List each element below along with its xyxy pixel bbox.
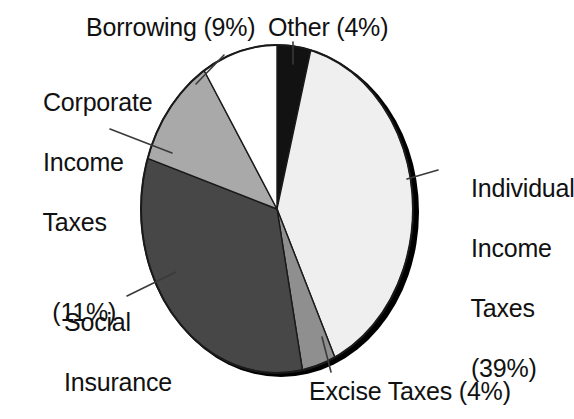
slice-label-individual-income-taxes: Individual Income Taxes (39%): [444, 143, 574, 413]
pie-slices: [141, 45, 413, 373]
pie-chart: Borrowing (9%) Other (4%) Corporate Inco…: [0, 0, 574, 419]
slice-label-individual-line-2: Income: [471, 234, 552, 262]
slice-label-corporate-line-1: Corporate: [43, 88, 152, 116]
slice-label-social-line-1: Social: [64, 308, 131, 336]
slice-label-individual-line-1: Individual: [471, 174, 574, 202]
slice-label-excise-taxes: Excise Taxes (4%): [309, 376, 511, 406]
slice-label-individual-line-3: Taxes: [471, 294, 535, 322]
slice-label-borrowing: Borrowing (9%): [86, 12, 255, 42]
slice-label-corporate-line-2: Income: [43, 148, 124, 176]
slice-label-social-line-2: Insurance: [64, 368, 172, 396]
slice-label-corporate-line-3: Taxes: [43, 208, 107, 236]
slice-label-social-insurance-receipts: Social Insurance Receipts (33%): [37, 277, 172, 419]
slice-label-other: Other (4%): [268, 12, 388, 42]
